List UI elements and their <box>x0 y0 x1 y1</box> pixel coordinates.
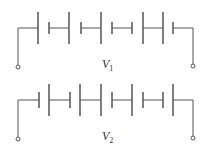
voltage-label-v1: V1 <box>102 57 113 73</box>
terminal <box>16 137 20 141</box>
terminal <box>191 136 195 140</box>
voltage-label-v2: V2 <box>102 129 113 145</box>
terminal <box>191 64 195 68</box>
terminal <box>16 65 20 69</box>
